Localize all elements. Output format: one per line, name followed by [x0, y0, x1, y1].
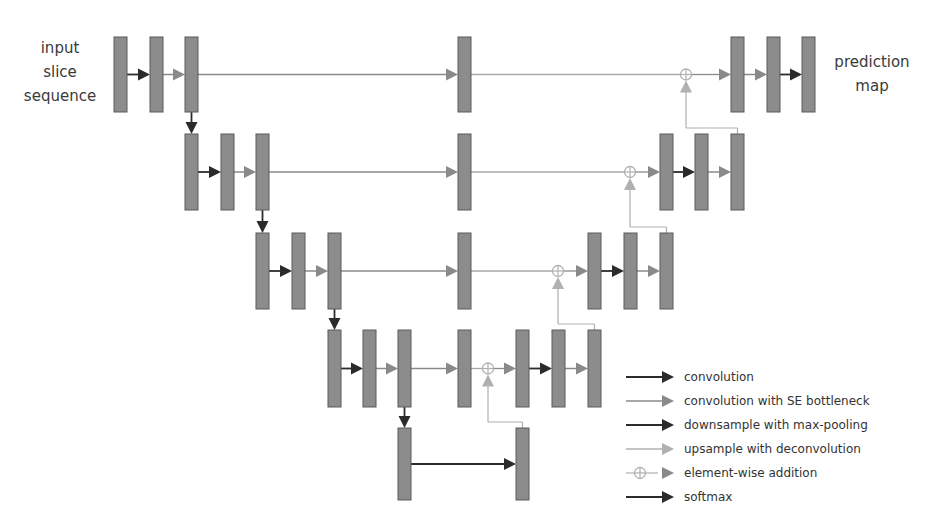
level-2-decoder-block-3	[660, 233, 673, 309]
level-1-downsample-arrow	[257, 210, 269, 233]
level-3-encoder-block-3	[398, 330, 411, 407]
level-1-decoder-block-3	[731, 134, 744, 210]
level-2-encoder-block-3	[328, 233, 341, 309]
level-2-skip-arrow	[341, 265, 458, 277]
arrow-head-icon	[446, 166, 458, 178]
level-1-decoder-block-2	[695, 134, 708, 210]
level-1-post-add-arrow	[636, 166, 660, 178]
level-2-decoder-block-2	[624, 233, 637, 309]
arrow-head-icon	[257, 221, 269, 233]
level-0-encoder-block-3	[185, 37, 198, 112]
level-3-decoder-block-2	[552, 330, 565, 407]
arrow-head-icon	[399, 416, 411, 428]
level-4-encoder-block-1	[398, 428, 411, 500]
level-3-decoder-block-1	[516, 330, 529, 407]
arrow-head-icon	[244, 166, 256, 178]
arrow-head-icon	[173, 69, 185, 81]
level-1-se-conv-arrow	[234, 166, 256, 178]
level-1-decoder-block-1	[660, 134, 673, 210]
level-2-se-conv-arrow-dec	[637, 265, 660, 277]
arrow-head-icon	[446, 265, 458, 277]
addition-icon	[635, 468, 646, 479]
level-1-encoder-block-2	[221, 134, 234, 210]
level-0-decoder-block-3	[802, 37, 815, 112]
level-3-se-conv-arrow-dec	[565, 363, 588, 375]
level-1-conv-arrow	[198, 166, 221, 178]
level-1-addition-icon	[625, 167, 636, 178]
downsample-arrow-icon	[624, 417, 676, 433]
level-4-decoder-block-1	[516, 428, 529, 500]
arrow-head-icon	[446, 363, 458, 375]
arrow-head-icon	[576, 363, 588, 375]
arrow-head-icon	[755, 69, 767, 81]
level-3-downsample-arrow	[399, 407, 411, 428]
level-3-encoder-block-1	[328, 330, 341, 407]
level-1-middle-block	[458, 134, 471, 210]
level-0-middle-block	[458, 37, 471, 112]
arrow-head-icon	[446, 69, 458, 81]
level-0-skip-arrow	[198, 69, 458, 81]
arrow-head-icon	[662, 443, 674, 455]
level-2-se-conv-arrow	[305, 265, 328, 277]
legend-item-se-convolution: convolution with SE bottleneck	[624, 389, 870, 413]
se-convolution-arrow-icon	[624, 393, 676, 409]
arrow-head-icon	[351, 363, 363, 375]
level-0-encoder-block-1	[114, 37, 127, 112]
level-2-encoder-block-1	[256, 233, 269, 309]
level-2-addition-icon	[553, 266, 564, 277]
level-1-skip-arrow	[269, 166, 458, 178]
level-0-addition-icon	[681, 69, 692, 80]
level-3-decoder-block-3	[588, 330, 601, 407]
level-0-upsample-arrow	[680, 81, 738, 135]
arrow-head-icon	[329, 318, 341, 330]
arrow-head-icon	[662, 491, 674, 503]
arrow-head-icon	[186, 122, 198, 134]
addition-circle-icon	[624, 465, 676, 481]
legend-label: softmax	[684, 490, 732, 504]
arrow-head-icon	[280, 265, 292, 277]
legend-label: element-wise addition	[684, 466, 817, 480]
level-2-conv-arrow-dec	[601, 265, 624, 277]
level-0-post-add-arrow	[692, 69, 731, 81]
level-3-addition-icon	[483, 363, 494, 374]
arrow-head-icon	[540, 363, 552, 375]
legend-label: downsample with max-pooling	[684, 418, 868, 432]
arrow-head-icon	[624, 178, 636, 190]
level-1-encoder-block-1	[185, 134, 198, 210]
level-0-se-conv-arrow	[163, 69, 185, 81]
level-2-post-add-arrow	[564, 265, 588, 277]
arrow-head-icon	[719, 166, 731, 178]
level-3-conv-arrow-dec	[529, 363, 552, 375]
arrow-head-icon	[662, 395, 674, 407]
legend: convolution convolution with SE bottlene…	[624, 365, 870, 509]
level-0-conv-arrow	[127, 69, 150, 81]
level-0-se-conv-arrow-dec	[744, 69, 767, 81]
legend-item-downsample: downsample with max-pooling	[624, 413, 870, 437]
level-0-encoder-block-2	[150, 37, 163, 112]
level-4-bottleneck-arrow	[411, 458, 516, 470]
arrow-head-icon	[680, 81, 692, 93]
arrow-head-icon	[648, 265, 660, 277]
softmax-arrow-icon	[624, 489, 676, 505]
legend-item-softmax: softmax	[624, 485, 870, 509]
legend-item-upsample: upsample with deconvolution	[624, 437, 870, 461]
level-3-conv-arrow	[341, 363, 363, 375]
arrow-head-icon	[576, 265, 588, 277]
level-1-encoder-block-3	[256, 134, 269, 210]
arrow-head-icon	[662, 419, 674, 431]
arrow-head-icon	[662, 467, 674, 479]
arrow-head-icon	[386, 363, 398, 375]
arrow-head-icon	[612, 265, 624, 277]
level-1-conv-arrow-dec	[673, 166, 695, 178]
legend-item-addition: element-wise addition	[624, 461, 870, 485]
level-2-middle-block	[458, 233, 471, 309]
level-3-encoder-block-2	[363, 330, 376, 407]
arrow-head-icon	[482, 375, 494, 387]
arrow-head-icon	[683, 166, 695, 178]
level-2-conv-arrow	[269, 265, 292, 277]
convolution-arrow-icon	[624, 369, 676, 385]
level-3-skip-arrow	[411, 363, 458, 375]
legend-item-convolution: convolution	[624, 365, 870, 389]
arrow-head-icon	[504, 458, 516, 470]
arrow-head-icon	[316, 265, 328, 277]
